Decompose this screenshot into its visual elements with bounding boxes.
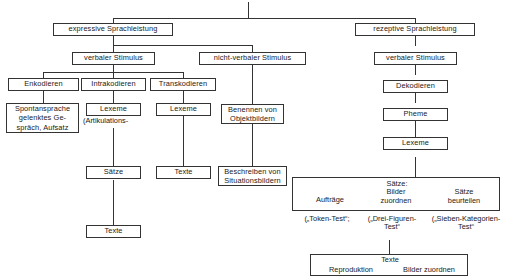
panel-saetze-col2-line2: zuordnen <box>363 197 429 205</box>
node-label: Transkodieren <box>159 80 207 88</box>
node-label: Intrakodieren <box>91 80 135 88</box>
panel-texte[interactable]: Texte Reproduktion Bilder zuordnen <box>310 254 468 276</box>
connector-verbaler-rechts-down <box>415 64 416 75</box>
node-label-line-1: Beschreiben von <box>224 167 281 176</box>
node-enkodieren[interactable]: Enkodieren <box>8 78 79 91</box>
node-label: Lexeme <box>170 105 197 113</box>
node-transkodieren[interactable]: Transkodieren <box>150 78 216 91</box>
node-label-line-2: gelenktes Ge- <box>19 113 66 122</box>
node-saetze[interactable]: Sätze <box>86 166 141 179</box>
label-sieben-kategorien-test-line-2: Test“ <box>420 223 512 231</box>
node-beschreiben-situationsbildern[interactable]: Beschreiben von Situationsbildern <box>218 166 287 186</box>
connector-saetze-down <box>113 180 114 225</box>
node-rezeptive-sprachleistung[interactable]: rezeptive Sprachleistung <box>355 23 475 36</box>
node-label: Texte <box>174 168 192 176</box>
node-label: verbaler Stimulus <box>84 54 143 62</box>
connector-enkodieren-down <box>43 90 44 103</box>
connector-lexeme-trans-down <box>183 116 184 166</box>
connector-benennen-down <box>252 124 253 166</box>
node-label: expressive Sprachleistung <box>69 25 158 33</box>
node-label: Lexeme <box>100 105 127 113</box>
connector-rezeptive-down <box>415 35 416 46</box>
connector-top-bus <box>113 18 416 19</box>
node-label: nicht-verbaler Stimulus <box>214 54 291 62</box>
connector-intrakodieren-down <box>113 90 114 103</box>
node-verbaler-stimulus-rezeptiv[interactable]: verbaler Stimulus <box>374 52 457 65</box>
node-lexeme-rezeptiv[interactable]: Lexeme <box>383 137 448 150</box>
node-label-line-1: Benennen von <box>228 105 277 114</box>
node-pheme[interactable]: Pheme <box>383 108 448 121</box>
panel-texte-heading: Texte <box>311 256 469 264</box>
node-label: verbaler Stimulus <box>386 54 445 62</box>
connector-dekodieren-down <box>415 92 416 103</box>
connector-root-stub <box>248 2 249 18</box>
node-label: Texte <box>104 227 122 235</box>
node-label: Pheme <box>404 110 428 118</box>
note-artikulations: (Artikulations- <box>83 117 145 125</box>
panel-texte-left: Reproduktion <box>315 266 387 274</box>
node-lexeme-intrakodieren[interactable]: Lexeme <box>86 103 141 116</box>
node-label: Lexeme <box>402 139 429 147</box>
node-dekodieren[interactable]: Dekodieren <box>383 80 448 93</box>
node-texte-unten[interactable]: Texte <box>86 225 141 238</box>
connector-saetze-panel-down <box>389 240 390 254</box>
node-label: Dekodieren <box>396 82 435 90</box>
panel-texte-right: Bilder zuordnen <box>391 266 467 274</box>
node-nicht-verbaler-stimulus[interactable]: nicht-verbaler Stimulus <box>199 52 306 65</box>
node-label-line-2: Objektbildern <box>230 114 275 123</box>
node-label: rezeptive Sprachleistung <box>373 25 456 33</box>
node-label-line-2: Situationsbildern <box>224 176 280 185</box>
node-intrakodieren[interactable]: Intrakodieren <box>81 78 146 91</box>
node-benennen-objektbildern[interactable]: Benennen von Objektbildern <box>221 104 284 124</box>
diagram-canvas: expressive Sprachleistung rezeptive Spra… <box>0 0 512 279</box>
connector-expressive-bus <box>113 45 253 46</box>
connector-lexeme-rezeptiv-down <box>415 157 416 177</box>
panel-saetze[interactable]: Sätze: Aufträge Bilder zuordnen Sätze be… <box>292 177 500 211</box>
node-label-line-1: Spontansprache <box>15 104 70 113</box>
node-texte-mitte[interactable]: Texte <box>156 166 211 179</box>
connector-nicht-verbaler-down <box>252 64 253 104</box>
panel-saetze-col1-line1: Aufträge <box>297 196 363 204</box>
node-verbaler-stimulus-expressiv[interactable]: verbaler Stimulus <box>72 52 155 65</box>
node-label-line-3: spräch, Aufsatz <box>16 123 68 132</box>
node-label: Enkodieren <box>24 80 62 88</box>
node-spontansprache[interactable]: Spontansprache gelenktes Ge- spräch, Auf… <box>6 103 79 133</box>
connector-lexeme-intra-down <box>113 128 114 166</box>
panel-saetze-col3-line2: beurteilen <box>431 197 497 205</box>
label-drei-figuren-test-line-2: Test“ <box>355 223 429 231</box>
node-expressive-sprachleistung[interactable]: expressive Sprachleistung <box>53 23 173 36</box>
node-lexeme-transkodieren[interactable]: Lexeme <box>156 103 211 116</box>
node-label: Sätze <box>104 168 123 176</box>
connector-transkodieren-down <box>183 90 184 103</box>
